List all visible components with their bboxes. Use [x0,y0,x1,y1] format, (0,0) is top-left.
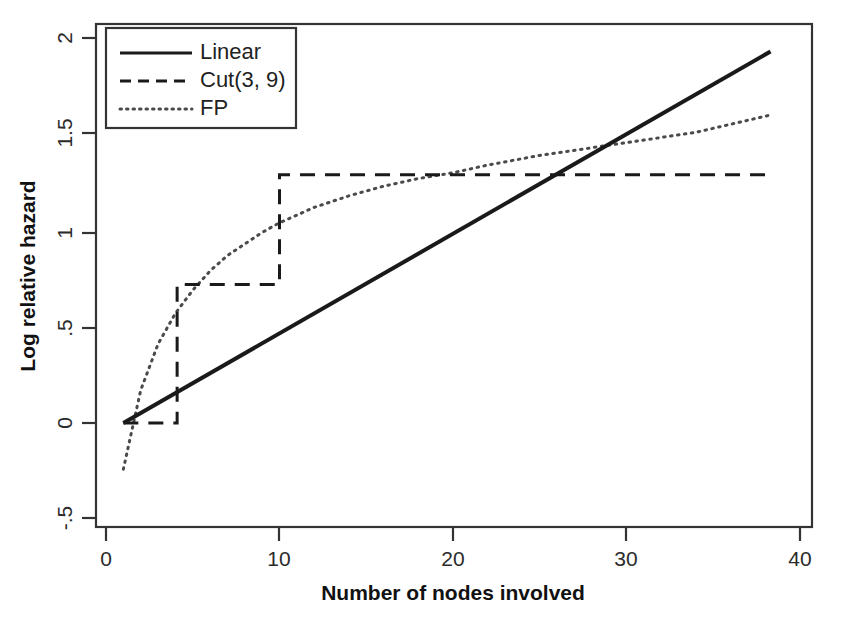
y-tick-label-one: 1 [53,227,76,239]
y-tick-label-one-and-half: 1.5 [53,118,76,147]
y-tick-label-two: 2 [53,32,76,44]
figure-container: -.5 0 .5 1 1.5 2 Log relative hazard 0 1… [0,0,844,624]
hazard-line-chart: -.5 0 .5 1 1.5 2 Log relative hazard 0 1… [0,0,844,624]
x-tick-label-40: 40 [788,547,811,570]
y-tick-label-neg-half: -.5 [53,506,76,531]
y-tick-label-zero: 0 [53,417,76,429]
x-tick-label-10: 10 [267,547,290,570]
y-axis-title: Log relative hazard [16,180,39,371]
x-axis-tick-labels: 0 10 20 30 40 [100,547,812,570]
y-tick-label-half: .5 [53,319,76,337]
legend[interactable]: Linear Cut(3, 9) FP [106,28,296,128]
series-line-fp [123,115,770,469]
x-axis-title: Number of nodes involved [321,581,585,604]
x-tick-label-0: 0 [100,547,112,570]
x-tick-label-30: 30 [614,547,637,570]
legend-label-cut: Cut(3, 9) [200,67,286,92]
y-axis-tick-labels: -.5 0 .5 1 1.5 2 [53,32,76,530]
x-tick-label-20: 20 [441,547,464,570]
legend-label-linear: Linear [200,39,261,64]
y-axis-ticks [82,38,96,518]
legend-label-fp: FP [200,95,228,120]
series-line-cut [123,175,770,423]
x-axis-ticks [106,527,800,541]
